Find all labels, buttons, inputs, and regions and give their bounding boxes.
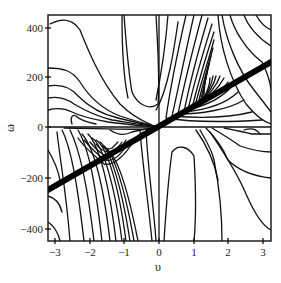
- x-tick-label: 2: [225, 246, 231, 258]
- y-tick-label: 0: [38, 121, 44, 133]
- contour-plot: 400 200 0 −200 −400 ω −3 −2 −1 0 1 2 3 υ: [0, 0, 281, 283]
- lower-left-cluster: [48, 128, 156, 241]
- y-axis: 400 200 0 −200 −400 ω: [3, 22, 51, 235]
- x-axis: −3 −2 −1 0 1 2 3 υ: [49, 238, 266, 274]
- y-axis-label: ω: [3, 124, 17, 132]
- x-tick-label: 3: [260, 246, 266, 258]
- x-tick-label: −2: [84, 246, 96, 258]
- x-tick-label: −3: [49, 246, 61, 258]
- y-tick-label: −400: [20, 223, 43, 235]
- cropped-caption: [30, 270, 280, 278]
- x-tick-label: −1: [118, 246, 130, 258]
- x-tick-label: 1: [191, 246, 197, 258]
- y-tick-label: 400: [27, 22, 44, 34]
- y-tick-label: −200: [20, 172, 43, 184]
- y-tick-label: 200: [27, 71, 44, 83]
- x-tick-label: 0: [156, 246, 162, 258]
